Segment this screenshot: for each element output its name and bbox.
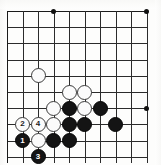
- star-point: [51, 9, 56, 14]
- stone-white[interactable]: [31, 133, 46, 148]
- grid-line-horizontal: [7, 43, 147, 44]
- star-point: [144, 9, 149, 14]
- grid-line-horizontal: [7, 60, 147, 61]
- stone-white[interactable]: [46, 101, 61, 116]
- grid-line-vertical: [147, 11, 148, 163]
- grid-line-horizontal: [7, 27, 147, 28]
- grid-line-horizontal: [7, 76, 147, 77]
- stone-black[interactable]: [77, 117, 92, 132]
- stone-white[interactable]: [77, 85, 92, 100]
- grid-line-vertical: [7, 11, 8, 163]
- stone-black[interactable]: [62, 133, 77, 148]
- stone-white-move-2[interactable]: 2: [15, 117, 30, 132]
- grid-line-vertical: [116, 11, 117, 163]
- stone-black-move-1[interactable]: 1: [15, 133, 30, 148]
- stone-white[interactable]: [31, 68, 46, 83]
- stone-move-number: 3: [36, 153, 40, 161]
- stone-black[interactable]: [62, 101, 77, 116]
- stone-move-number: 2: [20, 120, 24, 128]
- goban-grid: 2413: [0, 0, 161, 165]
- stone-move-number: 1: [20, 136, 24, 144]
- stone-white[interactable]: [62, 85, 77, 100]
- grid-line-horizontal: [7, 157, 147, 158]
- go-board-diagram: 2413: [0, 0, 161, 165]
- stone-black[interactable]: [93, 101, 108, 116]
- paper-texture-top: [0, 0, 161, 9]
- stone-black-move-3[interactable]: 3: [31, 149, 46, 164]
- stone-white[interactable]: [46, 117, 61, 132]
- grid-line-vertical: [100, 11, 101, 163]
- stone-black[interactable]: [108, 117, 123, 132]
- stone-black[interactable]: [62, 117, 77, 132]
- stone-white[interactable]: [77, 101, 92, 116]
- paper-texture-right: [155, 0, 161, 165]
- stone-move-number: 4: [36, 120, 40, 128]
- paper-texture-left: [0, 0, 7, 165]
- grid-line-vertical: [131, 11, 132, 163]
- stone-white-move-4[interactable]: 4: [31, 117, 46, 132]
- star-point: [144, 106, 149, 111]
- stone-black[interactable]: [46, 133, 61, 148]
- grid-line-horizontal: [7, 11, 147, 12]
